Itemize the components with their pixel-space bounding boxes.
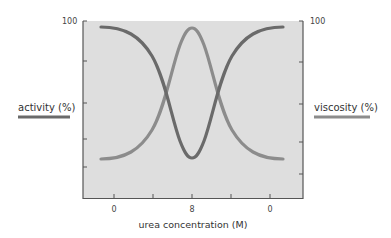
legend-viscosity-label: viscosity (%) (314, 102, 378, 113)
x-axis-title: urea concentration (M) (139, 219, 248, 230)
plot-area (83, 21, 303, 198)
y-left-tick-100: 100 (62, 17, 77, 26)
chart: 100 100 0 8 0 urea concentration (M) act… (0, 0, 391, 238)
x-tick-label-0-right: 0 (267, 205, 272, 214)
x-tick-label-8: 8 (189, 205, 194, 214)
y-right-tick-100: 100 (310, 17, 325, 26)
legend-activity-label: activity (%) (18, 102, 75, 113)
x-tick-label-0-left: 0 (111, 205, 116, 214)
